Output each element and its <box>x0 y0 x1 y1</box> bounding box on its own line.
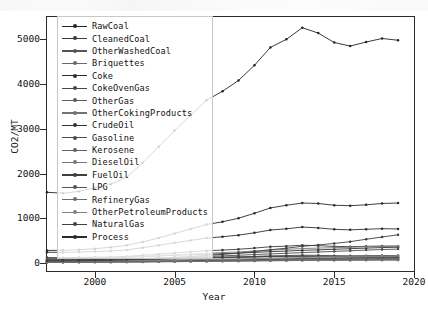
series-marker <box>253 232 256 235</box>
series-marker <box>381 236 384 239</box>
series-marker <box>349 240 352 243</box>
series-marker <box>237 234 240 237</box>
series-marker <box>381 202 384 205</box>
series-marker <box>221 90 224 93</box>
legend-item-label: Process <box>92 232 129 242</box>
series-marker <box>301 26 304 29</box>
series-marker <box>269 248 272 251</box>
series-marker <box>221 253 224 256</box>
series-marker <box>285 259 288 262</box>
legend-item-briquettes[interactable]: Briquettes <box>62 57 212 69</box>
series-marker <box>397 39 400 42</box>
series-marker <box>237 217 240 220</box>
series-marker <box>349 246 352 249</box>
series-marker <box>397 258 400 261</box>
legend-item-othergas[interactable]: OtherGas <box>62 94 212 106</box>
legend-line-icon <box>62 108 87 118</box>
series-marker <box>317 259 320 262</box>
x-tick-mark <box>175 272 176 278</box>
legend-item-label: OtherGas <box>92 96 134 106</box>
series-marker <box>269 229 272 232</box>
legend-box: RawCoalCleanedCoalOtherWashedCoalBriquet… <box>57 16 213 259</box>
series-marker <box>269 46 272 49</box>
series-marker <box>269 207 272 210</box>
series-marker <box>333 204 336 207</box>
legend-item-dieseloil[interactable]: DieselOil <box>62 156 212 168</box>
series-marker <box>365 246 368 249</box>
figure-canvas: CO2/MT Year 0100020003000400050002000200… <box>0 0 428 320</box>
legend-line-icon <box>62 96 87 106</box>
legend-item-process[interactable]: Process <box>62 231 212 243</box>
y-tick-label: 4000 <box>0 78 40 89</box>
series-marker <box>221 221 224 224</box>
legend-item-crudeoil[interactable]: CrudeOil <box>62 119 212 131</box>
legend-item-lpg[interactable]: LPG <box>62 181 212 193</box>
x-tick-mark <box>254 272 255 278</box>
y-tick-label: 5000 <box>0 33 40 44</box>
series-marker <box>301 245 304 248</box>
series-marker <box>285 257 288 260</box>
legend-item-otherwashedcoal[interactable]: OtherWashedCoal <box>62 45 212 57</box>
series-marker <box>381 37 384 40</box>
series-marker <box>269 253 272 256</box>
series-marker <box>221 260 224 263</box>
series-marker <box>317 32 320 34</box>
x-tick-label: 2020 <box>384 276 428 287</box>
legend-item-label: CokeOvenGas <box>92 83 150 93</box>
series-marker <box>397 228 400 231</box>
legend-item-label: CleanedCoal <box>92 34 150 44</box>
series-marker <box>365 204 368 207</box>
series-marker <box>62 260 65 263</box>
legend-item-othercokingproducts[interactable]: OtherCokingProducts <box>62 107 212 119</box>
series-marker <box>365 255 368 257</box>
legend-line-icon <box>62 83 87 93</box>
legend-item-label: Coke <box>92 71 113 81</box>
legend-line-icon <box>62 195 87 205</box>
legend-item-fueloil[interactable]: FuelOil <box>62 169 212 181</box>
legend-item-naturalgas[interactable]: NaturalGas <box>62 218 212 230</box>
series-marker <box>365 249 368 252</box>
series-marker <box>333 246 336 249</box>
legend-item-label: FuelOil <box>92 170 129 180</box>
series-marker <box>253 257 256 260</box>
legend-item-label: Briquettes <box>92 58 145 68</box>
series-marker <box>349 259 352 262</box>
series-marker <box>333 250 336 253</box>
series-marker <box>317 244 320 247</box>
legend-item-label: Gasoline <box>92 133 134 143</box>
x-tick-mark <box>414 272 415 278</box>
legend-line-icon <box>62 219 87 229</box>
series-marker <box>269 246 272 249</box>
series-marker <box>46 260 49 263</box>
y-tick-label: 3000 <box>0 123 40 134</box>
legend-item-cleanedcoal[interactable]: CleanedCoal <box>62 32 212 44</box>
series-marker <box>46 191 49 194</box>
series-marker <box>333 256 336 259</box>
legend-item-label: RefineryGas <box>92 195 150 205</box>
legend-item-rawcoal[interactable]: RawCoal <box>62 20 212 32</box>
series-marker <box>349 204 352 207</box>
legend-item-label: OtherPetroleumProducts <box>92 207 208 217</box>
series-marker <box>110 259 113 262</box>
legend-item-otherpetroleumproducts[interactable]: OtherPetroleumProducts <box>62 206 212 218</box>
series-marker <box>94 259 97 262</box>
series-marker <box>397 245 400 248</box>
series-marker <box>301 259 304 262</box>
legend-item-coke[interactable]: Coke <box>62 70 212 82</box>
legend-item-kerosene[interactable]: Kerosene <box>62 144 212 156</box>
series-marker <box>237 260 240 263</box>
legend-item-refinerygas[interactable]: RefineryGas <box>62 193 212 205</box>
series-marker <box>349 45 352 48</box>
series-marker <box>269 260 272 263</box>
series-marker <box>285 247 288 250</box>
legend-item-cokeovengas[interactable]: CokeOvenGas <box>62 82 212 94</box>
series-marker <box>333 259 336 262</box>
legend-item-label: OtherCokingProducts <box>92 108 192 118</box>
series-marker <box>253 64 256 67</box>
legend-item-gasoline[interactable]: Gasoline <box>62 132 212 144</box>
series-marker <box>237 258 240 261</box>
series-marker <box>317 251 320 254</box>
series-marker <box>349 229 352 232</box>
series-marker <box>349 255 352 258</box>
series-marker <box>285 252 288 255</box>
